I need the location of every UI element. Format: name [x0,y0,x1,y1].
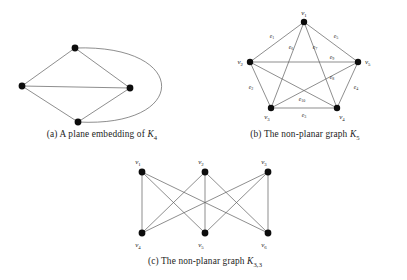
k4-edges [22,48,162,122]
edge-top-right [75,48,130,88]
vertex-v1 [301,19,307,25]
vertex-v2 [202,169,209,176]
edge-e1 [250,22,304,62]
figure-panel-a: (a) A plane embedding of K4 [0,0,204,150]
edge-e2 [250,62,271,108]
k33-vertex-labels: v1 v2 v3 v4 v5 v6 [135,158,267,250]
graph-k33-svg: v1 v2 v3 v4 v5 v6 [85,150,325,260]
figure-panel-c: v1 v2 v3 v4 v5 v6 (c) The non-planar gra… [85,150,325,280]
caption-c-symbol-sub: 3,3 [253,261,262,268]
k5-edge-labels: e1 e2 e3 e4 e5 e6 e7 e8 e9 e10 [249,33,358,119]
k4-vertices [19,45,134,126]
edge-label-e9: e9 [330,54,334,61]
vertex-v4 [139,230,146,237]
vertex-left [19,83,26,90]
figure-panel-b: v1 v2 v3 v4 v5 e1 e2 e3 e4 e5 e6 e7 e8 e… [203,0,407,150]
vertex-v3 [268,105,274,111]
vertex-label-v1: v1 [135,158,141,167]
vertex-label-v3: v3 [264,113,270,122]
edge-top-bottom-arc [75,48,162,122]
vertex-v5 [202,230,209,237]
caption-a: (a) A plane embedding of K4 [0,128,204,144]
vertex-label-v6: v6 [261,241,267,250]
caption-a-symbol-sub: 4 [154,134,157,141]
edge-label-e2: e2 [249,84,253,91]
edge-left-bottom [22,86,78,122]
caption-a-tag: (a) [47,129,58,139]
edge-label-e7: e7 [313,44,317,51]
edge-right-bottom [78,88,130,122]
edge-label-e6: e6 [289,44,293,51]
vertex-label-v1: v1 [301,9,307,18]
vertex-label-v3: v3 [261,158,267,167]
caption-b-text: The non-planar graph [264,129,348,139]
caption-c-tag: (c) [148,256,159,266]
vertex-v6 [265,230,272,237]
edge-label-e4: e4 [354,84,358,91]
vertex-v3 [265,169,272,176]
vertex-label-v2: v2 [198,158,204,167]
caption-a-text: A plane embedding of [60,129,145,139]
vertex-label-v2: v2 [237,58,243,67]
caption-c-text: The non-planar graph [161,256,245,266]
edge-left-right [22,86,130,88]
vertex-bottom [75,119,82,126]
edge-label-e3: e3 [302,112,306,119]
edge-top-left [22,48,75,86]
vertex-v1 [139,169,146,176]
edge-e7 [304,22,337,108]
edge-e10 [271,62,358,108]
vertex-right [127,85,134,92]
caption-b-tag: (b) [250,129,261,139]
edge-label-e10: e10 [299,96,305,103]
edge-label-e1: e1 [270,33,274,40]
vertex-label-v5: v5 [198,241,204,250]
vertex-label-v4: v4 [339,113,345,122]
edge-e8 [250,62,337,108]
vertex-label-v5: v5 [365,58,371,67]
vertex-label-v4: v4 [135,241,141,250]
k33-edges [142,172,268,233]
caption-b: (b) The non-planar graph K5 [203,128,407,144]
vertex-v4 [334,105,340,111]
edge-label-e5: e5 [334,33,338,40]
vertex-v5 [355,59,361,65]
caption-c: (c) The non-planar graph K3,3 [85,255,325,271]
vertex-top [72,45,79,52]
caption-b-symbol-sub: 5 [356,134,359,141]
figure-page: (a) A plane embedding of K4 [0,0,407,280]
k5-edges [250,22,358,108]
vertex-v2 [247,59,253,65]
k5-vertices [247,19,361,111]
